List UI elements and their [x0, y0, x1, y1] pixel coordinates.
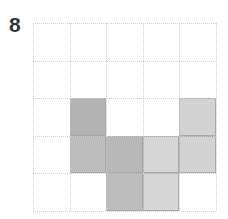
filled-cell: [179, 136, 216, 174]
grid-line-horizontal: [33, 61, 216, 62]
grid-line-vertical: [179, 23, 180, 211]
grid-line-horizontal: [33, 136, 216, 137]
grid-line-horizontal: [33, 23, 216, 24]
dotted-grid: [33, 23, 216, 211]
grid-line-vertical: [106, 23, 107, 211]
grid-line-horizontal: [33, 211, 216, 212]
filled-cell: [106, 173, 143, 211]
filled-cell: [143, 136, 180, 174]
grid-line-vertical: [216, 23, 217, 211]
filled-cell: [70, 136, 107, 174]
grid-line-vertical: [143, 23, 144, 211]
grid-line-vertical: [70, 23, 71, 211]
grid-line-horizontal: [33, 98, 216, 99]
filled-cell: [70, 98, 107, 136]
filled-cell: [143, 173, 180, 211]
filled-cell: [106, 136, 143, 174]
grid-line-horizontal: [33, 173, 216, 174]
grid-line-vertical: [33, 23, 34, 211]
figure-number-label: 8: [9, 14, 21, 35]
filled-cell: [179, 98, 216, 136]
